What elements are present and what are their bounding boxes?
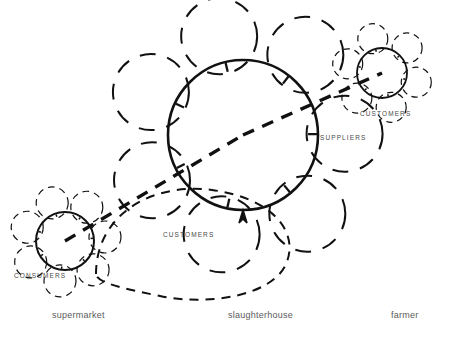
petal-circle-slaughterhouse [269, 176, 345, 252]
role-label-customers-center: CUSTOMERS [163, 231, 214, 238]
petal-stem-supermarket [56, 214, 57, 216]
petal-circles-group [11, 0, 431, 297]
petal-stem-supermarket [39, 231, 41, 232]
petal-circle-slaughterhouse [113, 54, 189, 130]
flow-arrowhead-slaughterhouse [239, 210, 247, 223]
petal-stem-slaughterhouse [176, 104, 184, 108]
petal-circle-supermarket [71, 191, 103, 223]
petal-circle-farmer [392, 33, 422, 63]
diagram-canvas: supermarket slaughterhouse farmer CONSUM… [0, 0, 464, 338]
link-supermarket-to-slaughterhouse [65, 135, 243, 241]
petal-stem-farmer [403, 79, 405, 80]
petal-stem-farmer [376, 50, 377, 52]
petal-stem-slaughterhouse [177, 164, 185, 168]
petal-stem-farmer [388, 94, 389, 96]
node-label-farmer: farmer [391, 310, 419, 320]
petal-stem-slaughterhouse [283, 77, 288, 84]
supply-chain-flower-diagram [0, 0, 464, 338]
petal-stem-slaughterhouse [226, 63, 228, 72]
petal-stem-supermarket [79, 217, 80, 219]
role-label-consumers-left: CONSUMERS [14, 272, 66, 279]
petal-stem-supermarket [41, 254, 43, 255]
petal-stem-slaughterhouse [227, 199, 229, 208]
petal-stem-farmer [365, 89, 366, 90]
petal-stem-supermarket [83, 259, 85, 261]
role-label-suppliers-center: SUPPLIERS [320, 134, 366, 141]
node-label-supermarket: supermarket [52, 310, 105, 320]
core-circles-group [36, 48, 407, 270]
petal-stem-farmer [359, 67, 361, 68]
petal-stem-farmer [398, 56, 399, 57]
node-label-slaughterhouse: slaughterhouse [228, 310, 293, 320]
petal-circle-slaughterhouse [267, 17, 343, 93]
petal-stem-slaughterhouse [284, 185, 290, 192]
role-label-customers-right: CUSTOMERS [360, 110, 411, 117]
